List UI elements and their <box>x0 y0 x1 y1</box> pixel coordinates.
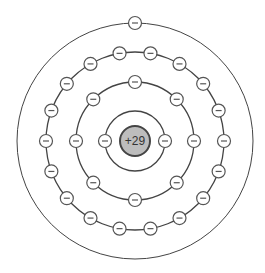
electron <box>129 17 142 30</box>
electron <box>159 135 172 148</box>
electron <box>113 47 126 60</box>
bohr-model-diagram: +29 <box>0 0 265 273</box>
electron <box>45 104 58 117</box>
electron <box>129 194 142 207</box>
electron <box>70 135 83 148</box>
electron <box>197 192 210 205</box>
nucleus-charge-label: +29 <box>125 134 146 148</box>
electron <box>144 222 157 235</box>
electron <box>212 165 225 178</box>
electron <box>170 93 183 106</box>
electron <box>84 212 97 225</box>
electron <box>173 57 186 70</box>
electron <box>87 176 100 189</box>
electron <box>40 135 53 148</box>
electron <box>60 77 73 90</box>
electron <box>144 47 157 60</box>
electron <box>99 135 112 148</box>
electron <box>45 165 58 178</box>
electron <box>60 192 73 205</box>
electron <box>84 57 97 70</box>
electron <box>173 212 186 225</box>
electron <box>87 93 100 106</box>
electron <box>170 176 183 189</box>
electron <box>129 76 142 89</box>
electron <box>113 222 126 235</box>
electron <box>188 135 201 148</box>
electron <box>218 135 231 148</box>
electron <box>197 77 210 90</box>
electron <box>212 104 225 117</box>
nucleus: +29 <box>120 126 150 156</box>
